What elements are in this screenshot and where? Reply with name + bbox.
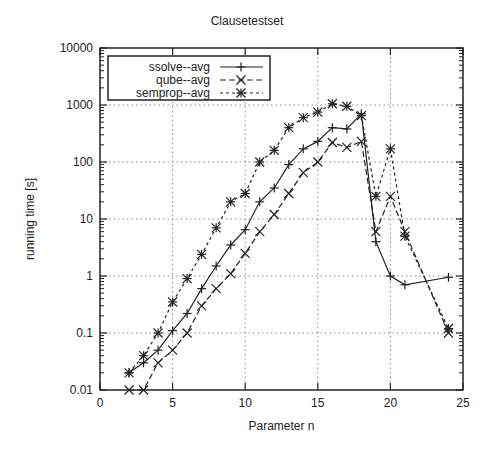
x-tick-label: 20 — [384, 396, 398, 410]
series-line — [129, 104, 448, 373]
line-chart: 05101520250.010.1110100100010000ssolve--… — [0, 0, 494, 453]
legend-label: ssolve--avg — [149, 60, 210, 74]
x-tick-label: 5 — [169, 396, 176, 410]
y-tick-label: 10000 — [60, 41, 94, 55]
x-tick-label: 10 — [239, 396, 253, 410]
x-tick-label: 15 — [311, 396, 325, 410]
y-tick-label: 10 — [80, 212, 94, 226]
x-tick-label: 0 — [97, 396, 104, 410]
legend-label: qube--avg — [156, 73, 210, 87]
y-tick-label: 100 — [73, 155, 93, 169]
y-tick-label: 1000 — [66, 98, 93, 112]
x-tick-label: 25 — [456, 396, 470, 410]
series-line — [129, 141, 448, 390]
y-tick-label: 0.01 — [70, 383, 94, 397]
y-tick-label: 1 — [86, 269, 93, 283]
legend-label: semprop--avg — [136, 86, 210, 100]
series-line — [129, 114, 448, 373]
y-tick-label: 0.1 — [76, 326, 93, 340]
